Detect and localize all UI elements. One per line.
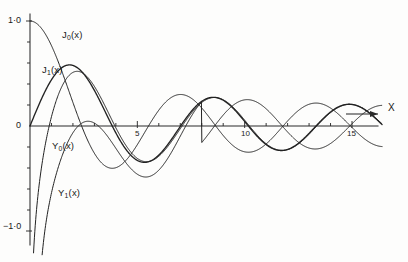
curve-label-subscript: 0 <box>59 145 63 152</box>
bessel-function-figure: 1·0 0 −1·0 5 10 15 X J0(x) J1(x) Y0(x) Y… <box>0 0 408 262</box>
y-axis-top-value-label: 1·0 <box>8 16 21 25</box>
x-axis-name-label: X <box>388 103 395 113</box>
curve-label-y1: Y1(x) <box>58 188 80 198</box>
y-axis-bottom-value-label: −1·0 <box>3 222 21 231</box>
y-axis-zero-value-label: 0 <box>16 121 21 130</box>
curve-y1 <box>42 100 382 255</box>
curve-label-subscript: 1 <box>65 192 69 199</box>
curve-y0 <box>34 71 382 253</box>
x-tick-label-15: 15 <box>347 130 356 138</box>
curve-label-subscript: 1 <box>47 69 51 76</box>
curve-label-j1: J1(x) <box>42 65 63 75</box>
x-tick-label-5: 5 <box>135 130 139 138</box>
curve-j0 <box>30 21 382 168</box>
curve-label-y0: Y0(x) <box>52 141 74 151</box>
axes-group <box>30 14 378 245</box>
curve-label-subscript: 0 <box>67 34 71 41</box>
curves-group <box>30 21 382 255</box>
curve-label-j0: J0(x) <box>62 30 83 40</box>
x-tick-label-10: 10 <box>241 130 250 138</box>
